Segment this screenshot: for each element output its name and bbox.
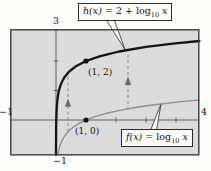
point-f-dot [83,117,88,122]
f-func-name: f(x) [126,131,142,142]
h-function-label-box: h(x) = 2 + log10 x [78,3,172,21]
point-h-label: (1, 2) [88,67,112,77]
point-f-label: (1, 0) [75,126,99,136]
f-func-op: log [156,131,171,142]
h-func-op: log [136,5,151,16]
f-func-eq: = [142,131,156,142]
y-axis-max-label: 3 [50,16,62,26]
y-axis-min-label: −1 [53,156,67,166]
log-translation-figure: 3 −1 4 −1 h(x) = 2 + log10 x f(x) = log1… [0,0,211,171]
h-func-eq: = 2 + [102,5,136,16]
h-func-base: 10 [151,11,159,19]
x-axis-min-label: −1 [0,107,10,117]
h-func-arg: x [159,5,167,16]
point-h-dot [83,58,88,63]
f-func-arg: x [179,131,187,142]
x-axis-max-label: 4 [201,107,211,117]
h-func-name: h(x) [83,5,102,16]
f-function-label-box: f(x) = log10 x [121,129,193,147]
